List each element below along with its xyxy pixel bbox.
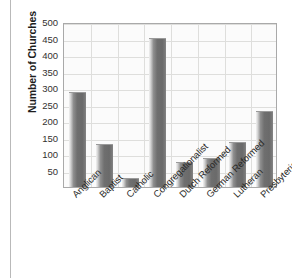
gridline-vertical: [118, 24, 119, 187]
gridline-vertical: [225, 24, 226, 187]
gridline-vertical: [144, 24, 145, 187]
gridline-vertical: [171, 24, 172, 187]
bar: [69, 92, 86, 187]
gridline-horizontal: [64, 90, 276, 91]
gridline-horizontal: [64, 74, 276, 75]
y-tick-label: 350: [18, 68, 58, 78]
page-left-rule: [10, 0, 11, 278]
gridline-horizontal: [64, 24, 276, 25]
gridline-horizontal: [64, 107, 276, 108]
y-tick-label: 250: [18, 101, 58, 111]
gridline-horizontal: [64, 140, 276, 141]
gridline-horizontal: [64, 57, 276, 58]
gridline-horizontal: [64, 41, 276, 42]
gridline-vertical: [251, 24, 252, 187]
gridline-vertical: [198, 24, 199, 187]
bar: [149, 38, 166, 187]
gridline-horizontal: [64, 123, 276, 124]
chart-page: Number of Churches 501001502002503003504…: [0, 0, 292, 278]
y-tick-label: 200: [18, 117, 58, 127]
gridline-vertical: [91, 24, 92, 187]
y-tick-label: 100: [18, 150, 58, 160]
y-tick-label: 300: [18, 84, 58, 94]
y-tick-label: 500: [18, 18, 58, 28]
y-tick-label: 400: [18, 51, 58, 61]
y-tick-label: 150: [18, 134, 58, 144]
y-tick-label: 450: [18, 35, 58, 45]
y-tick-label: 50: [18, 167, 58, 177]
